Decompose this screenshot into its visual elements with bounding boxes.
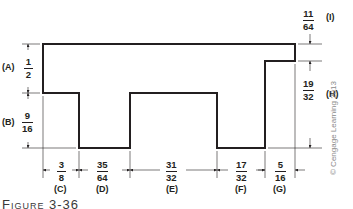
part-outline	[43, 44, 295, 148]
dim-g-denominator: 16	[275, 172, 286, 183]
dim-f-numerator: 17	[236, 160, 247, 171]
dim-b-numerator: 9	[25, 111, 30, 122]
dim-i-numerator: 11	[303, 9, 313, 20]
dim-h-numerator: 19	[303, 79, 314, 90]
dim-value-i: 11 64	[302, 9, 315, 31]
dim-label-e: (E)	[166, 185, 178, 194]
dim-label-c: (C)	[54, 185, 67, 194]
dim-i-denominator: 64	[303, 21, 314, 32]
dim-value-a: 1 2	[23, 57, 34, 79]
dim-value-e: 31 32	[165, 160, 178, 182]
dim-label-b: (B)	[2, 118, 15, 127]
dim-h-denominator: 32	[303, 91, 314, 102]
dim-e-numerator: 31	[166, 160, 177, 171]
dim-b-denominator: 16	[22, 123, 33, 134]
dim-label-g: (G)	[273, 185, 286, 194]
dim-a-numerator: 1	[26, 57, 31, 68]
dim-a-denominator: 2	[26, 69, 31, 80]
extension-lines	[22, 44, 322, 178]
dim-c-numerator: 3	[59, 160, 64, 171]
dim-value-f: 17 32	[235, 160, 248, 182]
dim-label-f: (F)	[235, 185, 247, 194]
dim-f-denominator: 32	[236, 172, 247, 183]
dim-g-numerator: 5	[278, 160, 283, 171]
dim-label-a: (A)	[2, 63, 15, 72]
dim-value-h: 19 32	[302, 79, 315, 101]
dim-value-d: 35 64	[96, 160, 109, 182]
dim-label-d: (D)	[96, 185, 109, 194]
dim-value-g: 5 16	[274, 160, 287, 182]
dimension-lines	[28, 34, 310, 170]
dim-value-c: 3 8	[56, 160, 67, 182]
dim-c-denominator: 8	[59, 172, 64, 183]
copyright-notice: © Cengage Learning 2013	[329, 81, 338, 175]
figure-caption: Figure 3-36	[2, 197, 79, 209]
dim-value-b: 9 16	[21, 111, 34, 133]
dim-d-numerator: 35	[97, 160, 108, 171]
dim-e-denominator: 32	[166, 172, 177, 183]
dim-d-denominator: 64	[97, 172, 108, 183]
dim-label-i: (I)	[326, 13, 335, 22]
